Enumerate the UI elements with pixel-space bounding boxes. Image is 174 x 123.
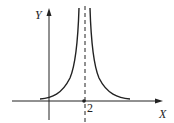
x-tick-label: 2 — [87, 101, 93, 115]
y-axis-label: Y — [35, 8, 43, 22]
tick-point — [82, 99, 86, 103]
curve-right-branch — [90, 8, 130, 99]
x-axis-arrow-icon — [155, 99, 163, 104]
x-axis-label: X — [158, 107, 167, 121]
y-axis-arrow-icon — [47, 8, 52, 16]
graph: Y X 2 — [0, 0, 174, 123]
curve-left-branch — [40, 8, 79, 99]
